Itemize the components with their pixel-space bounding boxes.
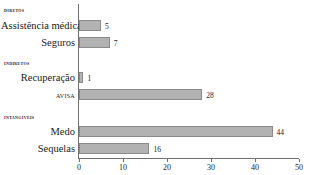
bar-rect xyxy=(79,143,149,154)
bar-label: Seguros xyxy=(1,36,77,50)
x-axis-tick-label: 20 xyxy=(163,163,171,173)
bar-row: AVISA 28 xyxy=(0,88,311,102)
x-axis-tick-mark xyxy=(167,159,168,162)
x-axis-tick-label: 0 xyxy=(77,163,81,173)
bar-value: 44 xyxy=(277,126,285,139)
bar-row: Sequelas 16 xyxy=(0,142,311,156)
x-axis-tick-mark xyxy=(255,159,256,162)
x-axis-tick-label: 10 xyxy=(119,163,127,173)
bar-row: Seguros 7 xyxy=(0,36,311,50)
bar-rect xyxy=(79,37,110,48)
x-axis-tick-label: 40 xyxy=(251,163,259,173)
bar-row: Assistência médica 5 xyxy=(0,19,311,33)
x-axis-tick-mark xyxy=(299,159,300,162)
bar-rect xyxy=(79,126,273,137)
bar-row: Medo 44 xyxy=(0,125,311,139)
group-header-indiretos: INDIRETOS xyxy=(4,59,30,67)
bar-value: 16 xyxy=(153,143,161,156)
bar-row: Recuperação 1 xyxy=(0,71,311,85)
bar-label: Recuperação xyxy=(1,71,77,85)
bar-chart: DIRETOS Assistência médica 5 Seguros 7 I… xyxy=(0,0,311,175)
x-axis-tick-label: 30 xyxy=(207,163,215,173)
bar-label: Assistência médica xyxy=(1,19,77,33)
x-axis-tick-label: 50 xyxy=(295,163,303,173)
x-axis-line xyxy=(78,158,299,159)
bar-value: 5 xyxy=(105,20,109,33)
x-axis-tick-mark xyxy=(123,159,124,162)
group-header-intangiveis: INTANGÍVEIS xyxy=(4,113,34,121)
plot-area: DIRETOS Assistência médica 5 Seguros 7 I… xyxy=(0,0,311,175)
group-header-diretos: DIRETOS xyxy=(4,6,24,14)
bar-label: Medo xyxy=(1,125,77,139)
bar-value: 7 xyxy=(114,37,118,50)
bar-label: Sequelas xyxy=(1,142,77,156)
bar-value: 28 xyxy=(206,89,214,102)
bar-label: AVISA xyxy=(1,88,77,102)
x-axis-tick-mark xyxy=(211,159,212,162)
bar-value: 1 xyxy=(87,72,91,85)
bar-rect xyxy=(79,89,202,100)
bar-rect xyxy=(79,20,101,31)
bar-rect xyxy=(79,72,83,83)
x-axis-tick-mark xyxy=(79,159,80,162)
